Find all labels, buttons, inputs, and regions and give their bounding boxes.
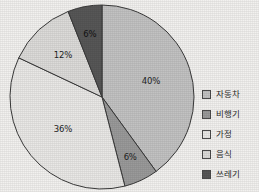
pie-label-음식: 12% — [54, 50, 72, 60]
legend-swatch-쓰레기 — [202, 170, 211, 179]
pie-slices — [10, 5, 194, 189]
pie-chart-figure: 40% 6% 36% 12% 6% 자동차 비행기 가정 음식 쓰레기 — [0, 0, 259, 192]
legend-label-자동차: 자동차 — [216, 90, 239, 99]
pie-label-비행기: 6% — [124, 152, 137, 162]
pie-label-가정: 36% — [54, 124, 72, 134]
legend-item-가정[interactable]: 가정 — [202, 124, 259, 144]
legend-label-쓰레기: 쓰레기 — [216, 170, 239, 179]
pie-chart-plot: 40% 6% 36% 12% 6% — [8, 3, 196, 191]
legend-item-자동차[interactable]: 자동차 — [202, 84, 259, 104]
pie-label-쓰레기: 6% — [83, 29, 96, 39]
legend-swatch-비행기 — [202, 110, 211, 119]
legend-swatch-음식 — [202, 150, 211, 159]
legend-item-비행기[interactable]: 비행기 — [202, 104, 259, 124]
pie-label-자동차: 40% — [142, 76, 160, 86]
legend-item-쓰레기[interactable]: 쓰레기 — [202, 164, 259, 184]
chart-legend: 자동차 비행기 가정 음식 쓰레기 — [202, 84, 259, 184]
legend-swatch-자동차 — [202, 90, 211, 99]
pie-svg: 40% 6% 36% 12% 6% — [8, 3, 196, 191]
legend-label-비행기: 비행기 — [216, 110, 239, 119]
legend-swatch-가정 — [202, 130, 211, 139]
legend-label-음식: 음식 — [216, 150, 232, 159]
legend-label-가정: 가정 — [216, 130, 232, 139]
legend-item-음식[interactable]: 음식 — [202, 144, 259, 164]
